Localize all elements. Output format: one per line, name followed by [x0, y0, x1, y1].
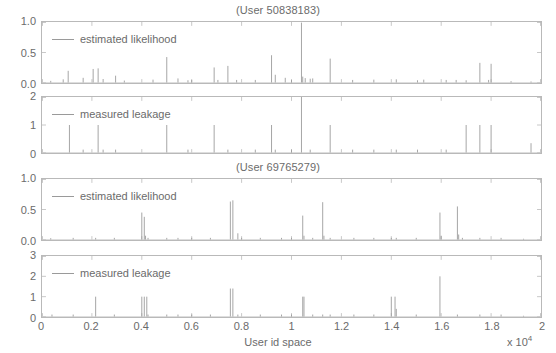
multiplier-base: x 10 — [507, 336, 528, 348]
y-tick-label: 0.0 — [21, 235, 36, 247]
x-tick-label: 0.6 — [184, 320, 199, 332]
y-tick-label: 1.0 — [21, 172, 36, 184]
x-tick-label: 1 — [288, 320, 294, 332]
legend-panel4: measured leakage — [52, 267, 171, 279]
y-tick-label: 1 — [30, 291, 36, 303]
panel-title-user2: (User 69765279) — [0, 161, 556, 173]
y-tick-label: 0.0 — [21, 78, 36, 90]
data-stems — [51, 200, 524, 239]
panel-title-user1: (User 50838183) — [0, 4, 556, 16]
y-tick-label: 2 — [30, 270, 36, 282]
y-axis-ticks-panel1: 1.0 0.5 0.0 — [2, 21, 36, 84]
plot-panel-estimated-likelihood-user2 — [41, 178, 542, 241]
y-tick-label: 0 — [30, 148, 36, 160]
legend-label: measured leakage — [80, 267, 171, 279]
legend-line-swatch — [52, 39, 74, 40]
legend-line-swatch — [52, 114, 74, 115]
y-tick-label: 0.5 — [21, 204, 36, 216]
y-tick-label: 0 — [30, 312, 36, 324]
y-tick-label: 2 — [30, 90, 36, 102]
x-axis-multiplier: x 104 — [507, 334, 532, 348]
legend-panel1: estimated likelihood — [52, 33, 177, 45]
plot-panel-estimated-likelihood-user1 — [41, 21, 542, 84]
multiplier-exponent: 4 — [528, 334, 532, 343]
x-tick-label: 0 — [38, 320, 44, 332]
x-tick-label: 1.4 — [384, 320, 399, 332]
plot-panel-measured-leakage-user1 — [41, 96, 542, 154]
y-tick-label: 1 — [30, 119, 36, 131]
y-tick-label: 1.0 — [21, 15, 36, 27]
legend-label: estimated likelihood — [80, 33, 177, 45]
x-tick-label: 0.8 — [234, 320, 249, 332]
y-axis-ticks-panel3: 1.0 0.5 0.0 — [2, 178, 36, 241]
figure-container: (User 50838183) 1.0 0.5 0.0 estimated li… — [0, 0, 556, 353]
legend-panel2: measured leakage — [52, 108, 171, 120]
legend-panel3: estimated likelihood — [52, 190, 177, 202]
plot-area-2 — [42, 97, 541, 153]
x-tick-label: 0.4 — [134, 320, 149, 332]
legend-label: estimated likelihood — [80, 190, 177, 202]
legend-line-swatch — [52, 196, 74, 197]
y-tick-label: 3 — [30, 249, 36, 261]
y-axis-ticks-panel4: 3 2 1 0 — [2, 255, 36, 318]
x-axis-label: User id space — [0, 336, 556, 348]
data-stems — [52, 276, 524, 316]
x-tick-label: 2 — [539, 320, 545, 332]
plot-area-4 — [42, 256, 541, 317]
plot-area-1 — [42, 22, 541, 83]
x-tick-label: 1.8 — [484, 320, 499, 332]
data-stems — [51, 23, 531, 83]
plot-panel-measured-leakage-user2 — [41, 255, 542, 318]
data-stems — [69, 97, 531, 153]
legend-label: measured leakage — [80, 108, 171, 120]
x-tick-label: 0.2 — [83, 320, 98, 332]
x-tick-label: 1.2 — [334, 320, 349, 332]
y-axis-ticks-panel2: 2 1 0 — [2, 96, 36, 154]
x-tick-label: 1.6 — [434, 320, 449, 332]
plot-area-3 — [42, 179, 541, 240]
y-tick-label: 0.5 — [21, 47, 36, 59]
legend-line-swatch — [52, 273, 74, 274]
